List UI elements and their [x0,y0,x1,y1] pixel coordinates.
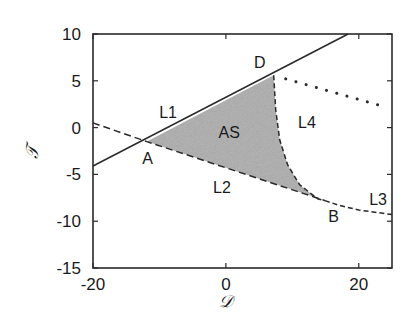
y-tick-label: 10 [62,25,81,44]
y-tick-label: 0 [72,119,81,138]
label-l4: L4 [298,114,316,131]
y-axis-title: 𝒯 [22,141,42,159]
y-tick-label: 5 [72,72,81,91]
y-tick-label: -5 [66,165,81,184]
series-line-dotted [286,79,379,105]
label-l3: L3 [369,191,387,208]
label-b: B [328,208,339,225]
label-l2: L2 [213,179,231,196]
label-as: AS [219,124,240,141]
phase-diagram-chart: -200201050-5-10-15 L1ASL4L2L3DAB 𝒟 𝒯 [0,0,411,335]
label-a: A [142,150,153,167]
y-tick-label: -10 [56,212,81,231]
x-axis-title: 𝒟 [219,291,236,311]
label-d: D [254,54,266,71]
y-tick-label: -15 [56,259,81,278]
x-tick-label: 20 [349,275,368,294]
x-tick-label: -20 [81,275,106,294]
label-l1: L1 [159,104,177,121]
